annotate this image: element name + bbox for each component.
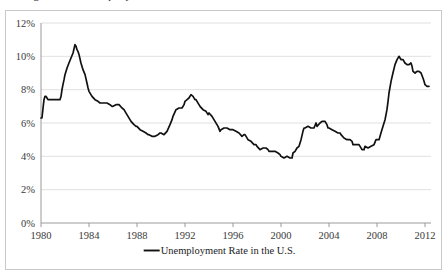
- data-series-group: [41, 45, 429, 158]
- series-line-unemployment-rate: [41, 45, 429, 158]
- gridline-group: [41, 23, 431, 223]
- unemployment-line-chart: 0%2%4%6%8%10%12% 19801984198819921996200…: [6, 11, 441, 269]
- y-axis-label: 10%: [16, 51, 36, 62]
- x-axis-label: 2000: [271, 230, 292, 241]
- clipped-caption-remnant: Figure 1. Unemployment: [0, 0, 447, 9]
- x-tick-group: [41, 223, 425, 227]
- x-axis-label: 2012: [415, 230, 436, 241]
- chart-legend: Unemployment Rate in the U.S.: [144, 245, 296, 256]
- chart-frame: 0%2%4%6%8%10%12% 19801984198819921996200…: [5, 10, 442, 270]
- y-axis-label-group: 0%2%4%6%8%10%12%: [16, 18, 36, 229]
- x-axis-label-group: 198019841988199219962000200420082012: [31, 230, 436, 241]
- y-axis-label: 12%: [16, 18, 36, 29]
- x-axis-label: 1980: [31, 230, 52, 241]
- y-axis-label: 6%: [21, 118, 35, 129]
- figure-container: Figure 1. Unemployment 0%2%4%6%8%10%12% …: [0, 0, 447, 277]
- y-axis-label: 0%: [21, 218, 35, 229]
- y-axis-label: 4%: [21, 151, 35, 162]
- x-axis-label: 1984: [79, 230, 101, 241]
- x-axis-label: 2008: [367, 230, 388, 241]
- legend-label: Unemployment Rate in the U.S.: [161, 245, 296, 256]
- y-axis-label: 8%: [21, 84, 35, 95]
- x-axis-label: 1988: [127, 230, 148, 241]
- y-axis-label: 2%: [21, 184, 35, 195]
- x-axis-label: 1996: [223, 230, 244, 241]
- x-axis-label: 1992: [175, 230, 196, 241]
- x-axis-label: 2004: [319, 230, 341, 241]
